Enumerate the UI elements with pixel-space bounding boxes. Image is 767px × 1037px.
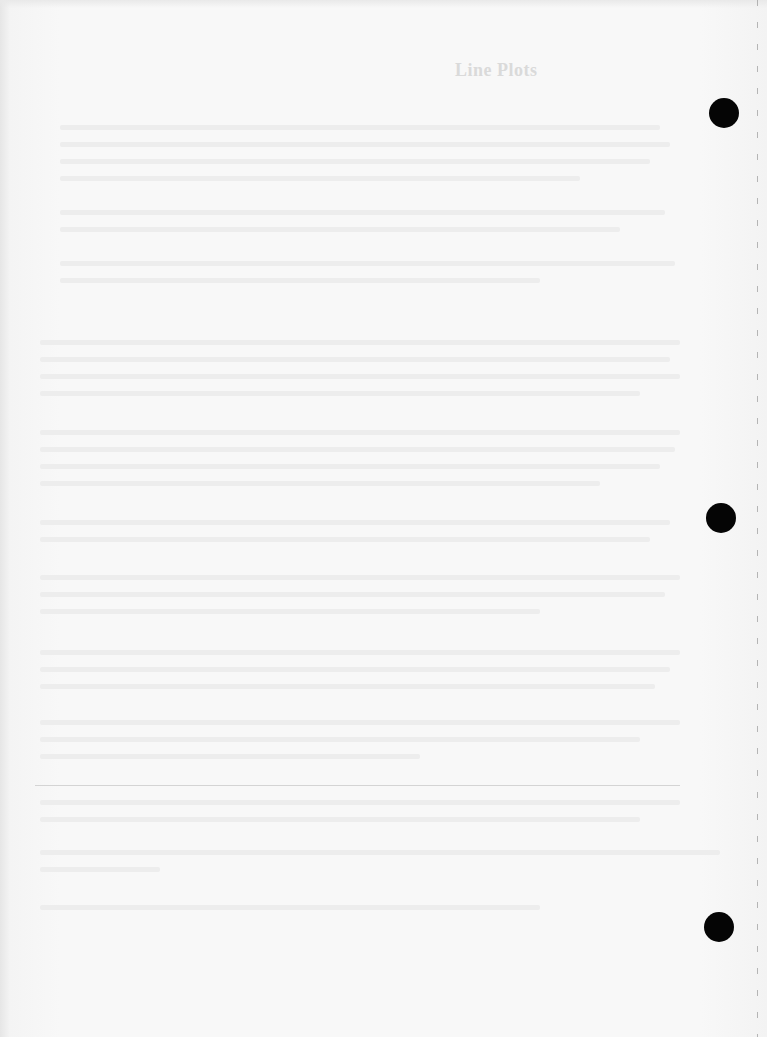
ghost-text-line [60, 278, 540, 283]
ghost-text-line [60, 159, 650, 164]
ghost-text-line [40, 609, 540, 614]
ghost-text-line [40, 520, 670, 525]
ghost-text-line [40, 575, 680, 580]
ghost-text-line [40, 592, 665, 597]
ghost-text-line [60, 176, 580, 181]
ghost-text-line [40, 905, 540, 910]
ghost-text-line [40, 374, 680, 379]
ghost-text-line [40, 340, 680, 345]
ghost-text-line [40, 430, 680, 435]
ghost-text-line [40, 800, 680, 805]
binder-hole [709, 98, 739, 128]
ghost-text-line [40, 684, 655, 689]
ghost-text-line [40, 817, 640, 822]
ghost-text-line [40, 481, 600, 486]
ghost-text-line [40, 867, 160, 872]
ghost-text-line [40, 391, 640, 396]
page-heading: Line Plots [455, 60, 538, 81]
ghost-text-line [40, 850, 720, 855]
ghost-text-line [40, 650, 680, 655]
binder-hole [704, 912, 734, 942]
ghost-text-line [40, 667, 670, 672]
perforation-edge [757, 0, 758, 1037]
ghost-text-line [40, 754, 420, 759]
ghost-text-line [40, 357, 670, 362]
ghost-text-line [60, 227, 620, 232]
ghost-text-line [60, 261, 675, 266]
ghost-text-line [40, 537, 650, 542]
ghost-text-line [60, 125, 660, 130]
ghost-text-line [40, 464, 660, 469]
ghost-text-line [40, 447, 675, 452]
ghost-text-line [60, 210, 665, 215]
ghost-text-line [60, 142, 670, 147]
binder-hole [706, 503, 736, 533]
ghost-text-line [40, 737, 640, 742]
scan-shadow [0, 0, 767, 8]
scanned-page: Line Plots [0, 0, 767, 1037]
ghost-text-line [40, 720, 680, 725]
footnote-rule [35, 785, 680, 786]
